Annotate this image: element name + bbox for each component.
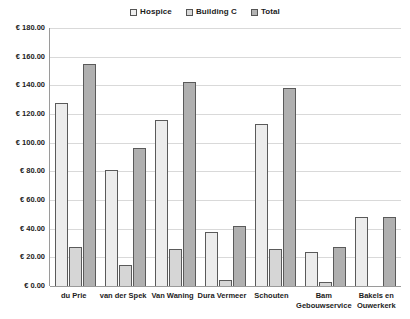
- legend-label-hospice: Hospice: [140, 8, 172, 16]
- bar-chart: Hospice Building C Total € 180.00€ 160.0…: [0, 0, 410, 319]
- legend-swatch-icon-hospice: [130, 9, 137, 16]
- x-axis-tick-label: van der Spek: [98, 289, 147, 319]
- legend-label-building-c: Building C: [196, 8, 237, 16]
- y-axis-tick-label: € 120.00: [0, 110, 45, 118]
- x-axis-tick-label: Bam Gebouwservice: [296, 289, 351, 319]
- bar-total[interactable]: [83, 64, 96, 286]
- bar-group: [200, 28, 250, 286]
- bar-total[interactable]: [233, 226, 246, 286]
- y-axis-tick-label: € 0.00: [0, 282, 45, 290]
- y-axis-labels: € 180.00€ 160.00€ 140.00€ 120.00€ 100.00…: [0, 28, 45, 286]
- bar-hospice[interactable]: [305, 252, 318, 286]
- bar-hospice[interactable]: [155, 120, 168, 286]
- bar-hospice[interactable]: [205, 232, 218, 286]
- bar-building-c[interactable]: [169, 249, 182, 286]
- y-axis-tick-label: € 40.00: [0, 225, 45, 233]
- legend-item-hospice: Hospice: [130, 8, 172, 16]
- bar-hospice[interactable]: [355, 217, 368, 286]
- chart-legend: Hospice Building C Total: [0, 8, 410, 16]
- bar-building-c[interactable]: [119, 265, 132, 287]
- x-axis-tick-label: Dura Vermeer: [197, 289, 246, 319]
- x-axis-tick-label: Bakels en Ouwerkerk: [352, 289, 401, 319]
- x-axis-tick-label: Schouten: [247, 289, 296, 319]
- y-axis-tick-label: € 60.00: [0, 196, 45, 204]
- bar-group: [251, 28, 301, 286]
- legend-swatch-icon-building-c: [186, 9, 193, 16]
- y-axis-tick-label: € 20.00: [0, 254, 45, 262]
- x-axis-tick-label: du Prie: [49, 289, 98, 319]
- bar-groups: [50, 28, 401, 286]
- bar-hospice[interactable]: [255, 124, 268, 286]
- bar-building-c[interactable]: [269, 249, 282, 286]
- bar-group: [50, 28, 100, 286]
- y-axis-tick-label: € 160.00: [0, 53, 45, 61]
- bar-group: [150, 28, 200, 286]
- bar-total[interactable]: [333, 247, 346, 286]
- legend-item-building-c: Building C: [186, 8, 237, 16]
- gridline: [50, 286, 401, 287]
- legend-item-total: Total: [251, 8, 280, 16]
- bar-hospice[interactable]: [105, 170, 118, 286]
- y-axis-tick-label: € 140.00: [0, 82, 45, 90]
- legend-label-total: Total: [261, 8, 280, 16]
- x-axis-tick-label: Van Waning: [148, 289, 197, 319]
- bar-total[interactable]: [183, 82, 196, 286]
- bar-building-c[interactable]: [319, 282, 332, 286]
- plot-area: [49, 28, 401, 286]
- y-axis-tick-label: € 80.00: [0, 168, 45, 176]
- legend-swatch-icon-total: [251, 9, 258, 16]
- bar-total[interactable]: [133, 148, 146, 286]
- bar-building-c[interactable]: [69, 247, 82, 286]
- bar-hospice[interactable]: [55, 103, 68, 286]
- bar-group: [100, 28, 150, 286]
- bar-building-c[interactable]: [219, 280, 232, 286]
- bar-group: [301, 28, 351, 286]
- y-axis-tick-label: € 180.00: [0, 24, 45, 32]
- bar-group: [351, 28, 401, 286]
- y-axis-tick-label: € 100.00: [0, 139, 45, 147]
- x-axis-labels: du Prievan der SpekVan WaningDura Vermee…: [49, 289, 401, 319]
- bar-total[interactable]: [283, 88, 296, 286]
- bar-total[interactable]: [383, 217, 396, 286]
